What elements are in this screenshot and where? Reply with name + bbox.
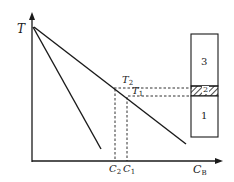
rod-zone-2-label: 2 xyxy=(202,86,209,94)
phase-diagram xyxy=(0,0,234,182)
y-axis-arrow-icon xyxy=(29,12,35,20)
t1-label: T1 xyxy=(132,86,143,98)
x-axis-arrow-icon xyxy=(215,158,223,164)
liquidus-line xyxy=(34,27,186,144)
c2-label: C2 xyxy=(109,164,121,176)
y-axis-label: T xyxy=(17,23,25,35)
dashed-guides xyxy=(114,88,192,161)
solidus-line xyxy=(33,27,101,149)
c1-label: C1 xyxy=(123,164,135,176)
rod-zone-1-label: 1 xyxy=(201,111,207,121)
x-axis-label: CB xyxy=(193,164,207,177)
y-axis xyxy=(29,12,35,162)
rod-zone-3-label: 3 xyxy=(201,57,207,67)
